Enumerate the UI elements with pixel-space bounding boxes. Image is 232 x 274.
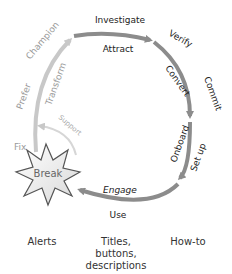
bottom-label-titles-line2: descriptions xyxy=(82,260,150,272)
label-commit: Commit xyxy=(202,75,224,112)
label-set-up: Set up xyxy=(188,142,207,173)
label-attract: Attract xyxy=(103,44,134,54)
label-prefer: Prefer xyxy=(14,82,33,111)
bottom-label-titles-line1: Titles, buttons, xyxy=(82,236,150,260)
arc-attract xyxy=(74,34,150,40)
label-investigate: Investigate xyxy=(95,15,146,25)
label-transform: Transform xyxy=(43,61,68,107)
label-engage: Engage xyxy=(103,185,137,195)
lifecycle-diagram: Break Investigate Verify Commit Set up U… xyxy=(0,0,232,274)
break-label: Break xyxy=(34,168,63,179)
label-use: Use xyxy=(110,210,127,220)
bottom-label-howto: How-to xyxy=(166,236,210,248)
bottom-label-alerts: Alerts xyxy=(22,236,62,248)
label-verify: Verify xyxy=(167,28,195,50)
label-fix: Fix xyxy=(14,142,27,152)
bottom-label-titles: Titles, buttons, descriptions xyxy=(82,236,150,272)
